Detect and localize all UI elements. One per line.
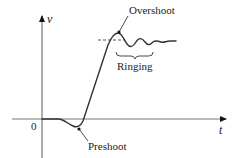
- waveform-diagram: v t 0 Overshoot Ringing Preshoot: [0, 0, 238, 158]
- y-axis-label: v: [47, 12, 53, 26]
- preshoot-annotation: Preshoot: [79, 129, 127, 152]
- ringing-brace: [116, 52, 153, 59]
- origin-label: 0: [31, 120, 37, 132]
- x-axis-label: t: [219, 123, 223, 137]
- waveform-curve: [42, 33, 176, 127]
- preshoot-label: Preshoot: [88, 140, 127, 152]
- ringing-label: Ringing: [117, 60, 153, 72]
- overshoot-annotation: Overshoot: [119, 4, 175, 32]
- ringing-annotation: Ringing: [116, 52, 153, 72]
- overshoot-label: Overshoot: [129, 4, 175, 16]
